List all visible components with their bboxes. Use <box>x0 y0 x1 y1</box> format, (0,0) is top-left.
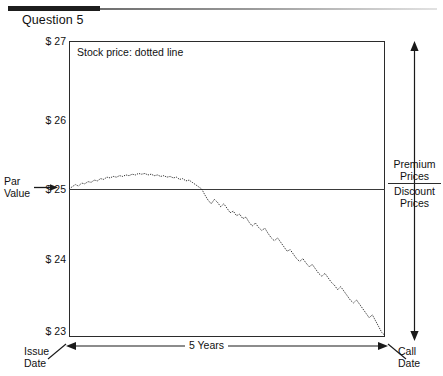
par-value-arrow-icon <box>34 183 58 192</box>
header-rule-light-segment <box>100 8 437 10</box>
plot-annotation: Stock price: dotted line <box>77 46 183 58</box>
par-value-label-line2: Value <box>4 188 38 200</box>
discount-label-line2: Prices <box>386 197 443 209</box>
issue-date-line1: Issue <box>24 345 49 357</box>
premium-label-line1: Premium <box>386 158 443 170</box>
call-date-line1: Call <box>398 345 420 357</box>
par-value-label: Par Value <box>4 176 38 199</box>
issue-date-label: Issue Date <box>24 345 49 369</box>
discount-label-line1: Discount <box>386 185 443 197</box>
issue-date-line2: Date <box>24 357 49 369</box>
time-span-label: 5 Years <box>185 339 228 351</box>
stock-price-series <box>69 41 385 337</box>
call-date-line2: Date <box>398 357 420 369</box>
premium-discount-labels: Premium Prices Discount Prices <box>386 158 443 209</box>
premium-label-line2: Prices <box>386 170 443 182</box>
par-value-label-line1: Par <box>4 176 38 188</box>
y-tick-27: $ 27 <box>4 35 66 47</box>
header-rule <box>0 6 443 11</box>
y-tick-24: $ 24 <box>4 253 66 265</box>
y-tick-23: $ 23 <box>4 325 66 337</box>
y-tick-26: $ 26 <box>4 114 66 126</box>
par-divider <box>388 183 441 184</box>
call-date-label: Call Date <box>398 345 420 369</box>
